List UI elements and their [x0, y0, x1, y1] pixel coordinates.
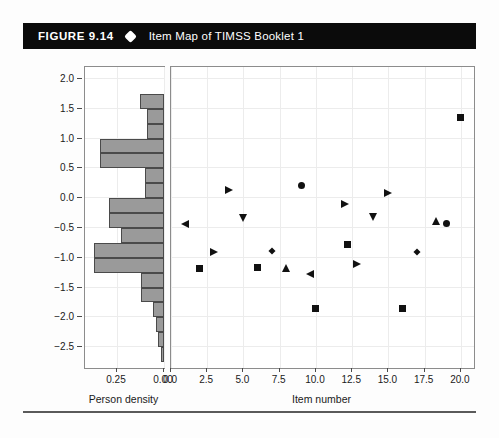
y-tick-label: −0.5 — [54, 221, 74, 232]
gridline-horizontal — [85, 78, 164, 79]
person-density-x-axis: 0.250.00Person density — [84, 368, 163, 413]
item-x-tick-label: 10.0 — [305, 374, 324, 385]
histogram-bar — [109, 213, 164, 228]
density-x-tick-mark — [116, 368, 117, 372]
y-tick-mark — [77, 138, 82, 139]
y-tick-mark — [77, 167, 82, 168]
histogram-bar — [100, 139, 164, 154]
item-x-tick-mark — [387, 368, 388, 372]
y-tick-label: −1.0 — [54, 251, 74, 262]
bottom-divider — [23, 411, 476, 413]
histogram-bar — [156, 317, 164, 332]
person-density-panel — [84, 66, 165, 369]
data-point-diamond — [269, 247, 276, 254]
item-x-tick-label: 20.0 — [450, 374, 469, 385]
histogram-bar — [141, 273, 164, 288]
histogram-bar — [145, 168, 164, 183]
histogram-bar — [147, 109, 164, 124]
gridline-vertical — [352, 67, 353, 368]
y-tick-mark — [77, 78, 82, 79]
item-x-tick-mark — [424, 368, 425, 372]
data-point-triangle-left — [306, 270, 314, 278]
y-tick-label: 0.5 — [60, 162, 74, 173]
y-tick-mark — [77, 257, 82, 258]
y-tick-mark — [77, 287, 82, 288]
histogram-bar — [94, 243, 164, 258]
histogram-bar — [153, 302, 164, 317]
y-tick-label: 2.0 — [60, 72, 74, 83]
data-point-triangle-down — [239, 214, 247, 222]
item-x-tick-label: 0.0 — [163, 374, 177, 385]
item-x-tick-mark — [242, 368, 243, 372]
gridline-vertical — [425, 67, 426, 368]
data-point-triangle-right — [384, 189, 392, 197]
item-x-tick-label: 15.0 — [378, 374, 397, 385]
density-x-tick-label: 0.25 — [106, 374, 125, 385]
y-tick-mark — [77, 108, 82, 109]
histogram-bar — [121, 228, 164, 243]
gridline-horizontal — [171, 197, 474, 198]
data-point-square — [399, 305, 406, 312]
data-point-triangle-right — [210, 248, 218, 256]
data-point-triangle-down — [369, 213, 377, 221]
data-point-circle — [443, 220, 450, 227]
data-point-triangle-right — [353, 260, 361, 268]
gridline-horizontal — [171, 346, 474, 347]
y-tick-label: −2.0 — [54, 311, 74, 322]
figure-page: FIGURE 9.14 Item Map of TIMSS Booklet 1 … — [0, 0, 499, 438]
data-point-square — [344, 241, 351, 248]
item-map-panel — [170, 66, 475, 369]
histogram-bar — [141, 288, 164, 303]
item-number-axis-title: Item number — [292, 393, 351, 405]
data-point-triangle-up — [282, 264, 290, 272]
gridline-vertical — [207, 67, 208, 368]
item-x-tick-mark — [351, 368, 352, 372]
y-tick-label: 1.5 — [60, 102, 74, 113]
gridline-vertical — [171, 67, 172, 368]
item-x-tick-label: 17.5 — [414, 374, 433, 385]
y-tick-label: −2.5 — [54, 341, 74, 352]
data-point-triangle-right — [341, 200, 349, 208]
data-point-square — [254, 264, 261, 271]
item-number-x-axis: 0.02.55.07.510.012.515.017.520.0Item num… — [170, 368, 473, 413]
y-tick-label: 1.0 — [60, 132, 74, 143]
histogram-bar — [145, 183, 164, 198]
item-x-tick-mark — [460, 368, 461, 372]
diamond-bullet-icon — [124, 30, 137, 43]
y-axis: Logits 2.01.51.00.50.0−0.5−1.0−1.5−2.0−2… — [0, 66, 84, 367]
y-tick-mark — [77, 227, 82, 228]
gridline-vertical — [316, 67, 317, 368]
gridline-horizontal — [171, 108, 474, 109]
item-x-tick-label: 12.5 — [341, 374, 360, 385]
item-x-tick-mark — [170, 368, 171, 372]
gridline-horizontal — [171, 167, 474, 168]
histogram-bar — [158, 332, 164, 347]
histogram-bar — [147, 124, 164, 139]
gridline-horizontal — [171, 138, 474, 139]
data-point-triangle-right — [225, 186, 233, 194]
data-point-circle — [298, 182, 305, 189]
item-x-tick-label: 5.0 — [236, 374, 250, 385]
histogram-bar — [140, 94, 164, 109]
gridline-horizontal — [85, 346, 164, 347]
data-point-triangle-up — [432, 217, 440, 225]
gridline-horizontal — [171, 316, 474, 317]
figure-number-label: FIGURE 9.14 — [38, 30, 114, 42]
gridline-vertical — [280, 67, 281, 368]
data-point-square — [196, 265, 203, 272]
gridline-vertical — [461, 67, 462, 368]
histogram-bar — [94, 258, 164, 273]
data-point-triangle-left — [181, 220, 189, 228]
density-x-tick-mark — [163, 368, 164, 372]
y-tick-mark — [77, 197, 82, 198]
gridline-horizontal — [171, 257, 474, 258]
y-tick-label: 0.0 — [60, 192, 74, 203]
figure-title: Item Map of TIMSS Booklet 1 — [149, 30, 304, 42]
histogram-bar — [100, 153, 164, 168]
figure-header: FIGURE 9.14 Item Map of TIMSS Booklet 1 — [23, 23, 476, 49]
item-x-tick-mark — [279, 368, 280, 372]
person-density-axis-title: Person density — [89, 393, 158, 405]
y-tick-mark — [77, 346, 82, 347]
gridline-horizontal — [171, 287, 474, 288]
histogram-bar — [109, 198, 164, 213]
